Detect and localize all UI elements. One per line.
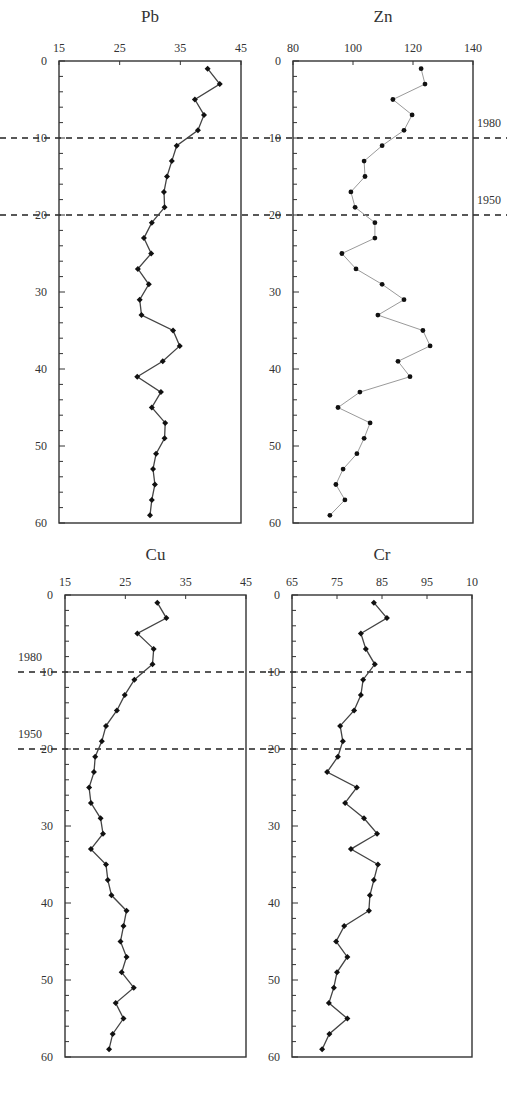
data-point [88, 800, 94, 806]
data-point [124, 954, 130, 960]
data-point [86, 785, 92, 791]
pb-panel: Pb152535450102030405060 [35, 7, 247, 530]
y-tick-label: 20 [268, 742, 280, 756]
y-tick-label: 10 [41, 665, 53, 679]
zn-panel: Zn80100120140010203040506019801950 [269, 7, 501, 530]
data-point [106, 1046, 112, 1052]
geochemical-depth-profiles: Pb152535450102030405060 Zn80100120140010… [0, 0, 507, 1096]
data-line [137, 69, 220, 516]
y-tick-label: 20 [35, 208, 47, 222]
x-tick-label: 80 [287, 41, 299, 55]
data-point [170, 328, 176, 334]
y-tick-label: 50 [269, 439, 281, 453]
y-tick-label: 10 [35, 131, 47, 145]
panel-title: Pb [141, 7, 159, 26]
data-point [341, 923, 347, 929]
data-point [118, 939, 124, 945]
x-tick-label: 95 [421, 575, 433, 589]
x-tick-label: 35 [174, 41, 186, 55]
plot-frame [293, 61, 473, 523]
data-point [428, 344, 433, 349]
x-tick-label: 65 [286, 575, 298, 589]
panel-title: Zn [374, 7, 393, 26]
data-point [99, 738, 105, 744]
data-line [330, 69, 430, 516]
data-point [152, 482, 158, 488]
x-tick-label: 15 [59, 575, 71, 589]
data-point [163, 615, 169, 621]
panel-title: Cr [374, 545, 391, 564]
data-point [363, 646, 369, 652]
x-tick-label: 100 [344, 41, 362, 55]
y-tick-label: 60 [35, 516, 47, 530]
y-tick-label: 40 [41, 896, 53, 910]
data-point [192, 97, 198, 103]
data-point [358, 390, 363, 395]
data-point [354, 267, 359, 272]
data-point [366, 908, 372, 914]
x-tick-label: 25 [119, 575, 131, 589]
data-point [141, 235, 147, 241]
y-tick-label: 30 [269, 285, 281, 299]
year-label: 1950 [18, 727, 42, 741]
plot-frame [292, 595, 472, 1057]
x-tick-label: 25 [114, 41, 126, 55]
data-point [371, 877, 377, 883]
y-tick-label: 30 [35, 285, 47, 299]
reference-lines [0, 138, 507, 749]
data-line [322, 603, 387, 1050]
data-point [362, 159, 367, 164]
data-point [402, 297, 407, 302]
data-point [368, 421, 373, 426]
data-point [161, 189, 167, 195]
y-tick-label: 50 [268, 973, 280, 987]
data-point [122, 692, 128, 698]
x-tick-label: 140 [464, 41, 482, 55]
data-point [336, 405, 341, 410]
data-point [408, 374, 413, 379]
x-tick-label: 85 [376, 575, 388, 589]
data-point [150, 466, 156, 472]
x-tick-label: 75 [331, 575, 343, 589]
y-tick-label: 50 [35, 439, 47, 453]
y-tick-label: 40 [268, 896, 280, 910]
y-tick-label: 30 [268, 819, 280, 833]
data-point [367, 892, 373, 898]
y-tick-label: 40 [35, 362, 47, 376]
data-point [162, 435, 168, 441]
y-tick-label: 10 [268, 665, 280, 679]
plot-frame [65, 595, 246, 1057]
data-point [343, 498, 348, 503]
data-point [164, 174, 170, 180]
y-tick-label: 40 [269, 362, 281, 376]
y-tick-label: 30 [41, 819, 53, 833]
x-tick-label: 10 [466, 575, 478, 589]
x-tick-label: 120 [404, 41, 422, 55]
data-point [349, 190, 354, 195]
data-point [147, 512, 153, 518]
y-tick-label: 60 [41, 1050, 53, 1064]
y-tick-label: 0 [41, 54, 47, 68]
y-tick-label: 0 [47, 588, 53, 602]
data-point [373, 236, 378, 241]
data-point [419, 66, 424, 71]
data-point [355, 451, 360, 456]
data-point [353, 205, 358, 210]
y-tick-label: 60 [269, 516, 281, 530]
data-point [421, 328, 426, 333]
data-point [362, 436, 367, 441]
data-point [92, 754, 98, 760]
data-point [319, 1046, 325, 1052]
data-point [153, 451, 159, 457]
data-point [396, 359, 401, 364]
y-tick-label: 60 [268, 1050, 280, 1064]
data-point [139, 312, 145, 318]
data-point [137, 297, 143, 303]
data-point [410, 113, 415, 118]
data-point [358, 631, 364, 637]
x-tick-label: 45 [235, 41, 247, 55]
panel-title: Cu [146, 545, 166, 564]
plot-frame [59, 61, 241, 523]
data-point [340, 251, 345, 256]
data-point [376, 313, 381, 318]
